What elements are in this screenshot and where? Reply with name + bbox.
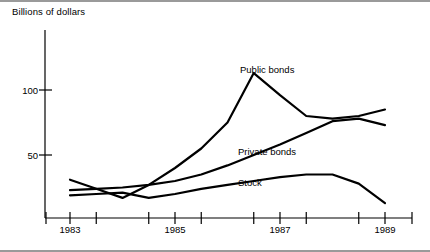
chart-figure: Billions of dollars 100 50 1983 1985 198… [0,0,430,252]
plot-area [0,0,430,252]
series-lines [70,73,385,203]
series-line-private-bonds [70,119,385,191]
series-line-public-bonds [70,73,385,198]
